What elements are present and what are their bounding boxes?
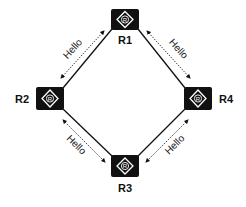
- router-r1: R: [111, 9, 139, 30]
- router-label-r2: R2: [15, 93, 29, 105]
- svg-text:R: R: [123, 17, 128, 23]
- link-r1-r4: [138, 29, 185, 88]
- router-label-r3: R3: [118, 182, 132, 194]
- ospf-hello-diagram: Hello Hello Hello Hello R R1 R R2 R R4: [0, 0, 246, 207]
- hello-label-r1-r4: Hello: [167, 37, 191, 62]
- hello-label-r2-r3: Hello: [65, 133, 89, 157]
- svg-text:R: R: [123, 163, 128, 169]
- router-r4: R: [184, 87, 212, 110]
- router-label-r1: R1: [118, 34, 132, 46]
- router-r2: R: [36, 87, 64, 110]
- router-label-r4: R4: [219, 93, 234, 105]
- svg-text:R: R: [196, 96, 201, 102]
- hello-label-r1-r2: Hello: [61, 36, 85, 61]
- hello-label-r4-r3: Hello: [163, 132, 187, 156]
- svg-text:R: R: [48, 96, 53, 102]
- router-r3: R: [111, 155, 139, 177]
